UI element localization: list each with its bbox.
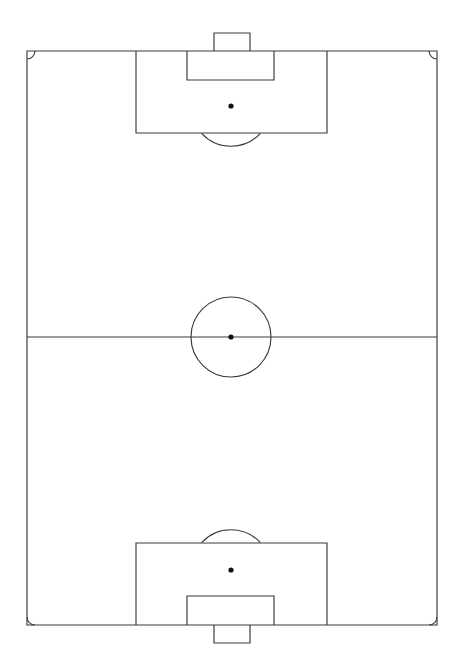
pitch-canvas (0, 0, 462, 671)
bottom-penalty-spot (228, 567, 233, 572)
top-penalty-spot (228, 103, 233, 108)
football-pitch-diagram: Association football pitch — plan view (0, 0, 462, 671)
centre-spot (228, 334, 233, 339)
